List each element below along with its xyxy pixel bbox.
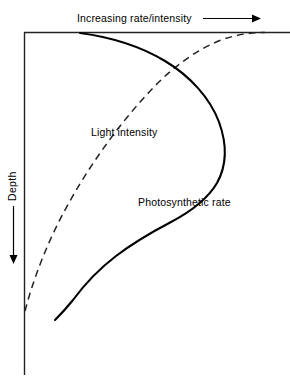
photosynthetic-rate-label: Photosynthetic rate xyxy=(138,196,231,208)
top-axis-label-group: Increasing rate/intensity xyxy=(77,12,261,24)
figure-container: Increasing rate/intensity Depth Light in… xyxy=(0,0,290,383)
light-intensity-curve xyxy=(25,33,265,312)
depth-axis-label: Depth xyxy=(6,171,18,201)
light-intensity-label: Light intensity xyxy=(91,126,158,138)
depth-axis-label-group: Depth xyxy=(6,171,18,264)
arrow-down-icon xyxy=(10,255,18,264)
top-axis-label: Increasing rate/intensity xyxy=(77,12,192,24)
depth-profile-chart: Increasing rate/intensity Depth Light in… xyxy=(0,0,290,383)
arrow-right-icon xyxy=(252,15,261,23)
photosynthetic-rate-curve xyxy=(55,33,225,320)
